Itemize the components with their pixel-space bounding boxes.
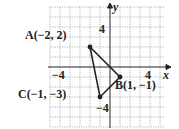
label-point-a: A(−2, 2)	[25, 28, 67, 42]
x-axis-label: x	[162, 68, 169, 82]
tick-x-neg: −4	[52, 68, 65, 82]
point-c	[98, 95, 103, 100]
point-a	[88, 45, 93, 50]
y-axis-label: y	[111, 0, 119, 14]
label-point-c: C(−1, −3)	[18, 87, 66, 101]
tick-y-pos: 4	[99, 22, 105, 36]
tick-y-neg: −4	[96, 101, 109, 115]
coordinate-plane: y x 4 −4 −4 4 A(−2, 2) B(1, −1) C(−1, −3…	[0, 0, 179, 129]
label-point-b: B(1, −1)	[115, 78, 156, 92]
y-arrow-icon	[108, 3, 113, 8]
